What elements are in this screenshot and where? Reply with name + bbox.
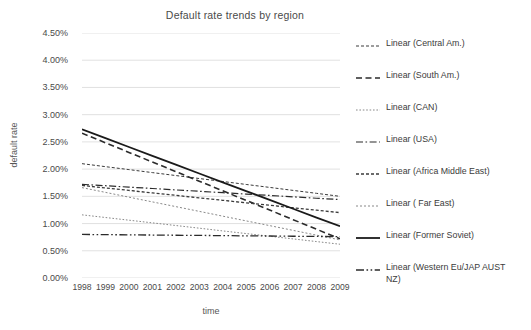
series-line-1: [82, 133, 340, 239]
legend-line-swatch-icon: [356, 104, 380, 116]
y-tick-label: 1.00%: [0, 219, 68, 229]
plot-svg: [82, 33, 340, 278]
chart-title: Default rate trends by region: [100, 9, 370, 21]
y-tick-label: 3.50%: [0, 82, 68, 92]
legend-label: Linear (Western Eu/JAP AUST NZ): [386, 262, 505, 285]
legend-label: Linear ( Far East): [386, 198, 454, 210]
y-tick-label: 1.50%: [0, 191, 68, 201]
y-tick-label: 2.00%: [0, 164, 68, 174]
y-axis-tick-labels: 0.00%0.50%1.00%1.50%2.00%2.50%3.00%3.50%…: [0, 0, 78, 330]
series-line-2: [82, 215, 340, 244]
chart-container: Default rate trends by region default ra…: [0, 0, 531, 330]
legend-line-swatch-icon: [356, 200, 380, 212]
legend-label: Linear (USA): [386, 134, 437, 146]
y-tick-label: 4.00%: [0, 55, 68, 65]
legend-line-swatch-icon: [356, 72, 380, 84]
x-axis-title: time: [82, 306, 340, 316]
y-tick-label: 3.00%: [0, 110, 68, 120]
x-tick-label: 2009: [325, 282, 355, 292]
y-tick-label: 0.00%: [0, 273, 68, 283]
legend-item[interactable]: Linear (Central Am.): [356, 38, 531, 52]
legend-label: Linear (Former Soviet): [386, 230, 474, 242]
legend-line-swatch-icon: [356, 168, 380, 180]
chart-legend: Linear (Central Am.)Linear (South Am.)Li…: [356, 38, 531, 308]
series-line-5: [82, 188, 340, 240]
legend-item[interactable]: Linear (Western Eu/JAP AUST NZ): [356, 262, 531, 285]
legend-line-swatch-icon: [356, 40, 380, 52]
legend-item[interactable]: Linear (CAN): [356, 102, 531, 116]
series-lines: [82, 129, 340, 244]
legend-label: Linear (Central Am.): [386, 38, 465, 50]
series-line-7: [82, 234, 340, 236]
legend-line-swatch-icon: [356, 232, 380, 244]
legend-item[interactable]: Linear (Africa Middle East): [356, 166, 531, 180]
y-tick-label: 0.50%: [0, 246, 68, 256]
legend-label: Linear (CAN): [386, 102, 437, 114]
series-line-4: [82, 185, 340, 212]
plot-area: [82, 33, 340, 278]
legend-line-swatch-icon: [356, 264, 380, 276]
gridlines: [82, 33, 340, 278]
series-line-6: [82, 129, 340, 226]
y-tick-label: 4.50%: [0, 28, 68, 38]
y-tick-label: 2.50%: [0, 137, 68, 147]
legend-item[interactable]: Linear (USA): [356, 134, 531, 148]
legend-label: Linear (Africa Middle East): [386, 166, 490, 178]
legend-item[interactable]: Linear (South Am.): [356, 70, 531, 84]
legend-line-swatch-icon: [356, 136, 380, 148]
legend-item[interactable]: Linear ( Far East): [356, 198, 531, 212]
series-line-3: [82, 184, 340, 199]
x-axis-tick-labels: 1998199920002001200220032004200520062007…: [82, 282, 340, 298]
legend-label: Linear (South Am.): [386, 70, 459, 82]
legend-item[interactable]: Linear (Former Soviet): [356, 230, 531, 244]
